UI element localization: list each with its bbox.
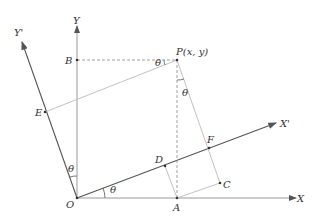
label-x: X [296,193,305,204]
label-e: E [34,107,43,118]
rotated-axes-diagram: Y Y' X X' O A B C D E F P(x, y) θ θ θ θ [0,0,312,224]
theta-y: θ [68,163,74,174]
label-y-prime: Y' [14,27,23,38]
theta-p-down: θ [182,87,188,98]
angle-arc-p-left [164,60,165,65]
label-o: O [66,199,74,210]
theta-x: θ [110,184,116,195]
label-p: P(x, y) [175,46,208,57]
label-x-prime: X' [279,118,290,129]
theta-p-left: θ [155,57,161,68]
line-ac [177,183,220,198]
label-c: C [223,179,231,190]
line-pc [177,60,220,183]
angle-arc-y [70,176,77,177]
angle-arc-p-down [177,79,184,80]
x-prime-axis [77,123,276,198]
label-d: D [154,154,163,165]
angle-arc-x [103,188,105,198]
label-b: B [64,55,72,66]
label-a: A [172,202,180,213]
diagram-canvas: Y Y' X X' O A B C D E F P(x, y) θ θ θ θ [0,0,312,224]
label-f: F [206,134,215,145]
label-y: Y [73,15,81,26]
line-ad [165,166,177,198]
